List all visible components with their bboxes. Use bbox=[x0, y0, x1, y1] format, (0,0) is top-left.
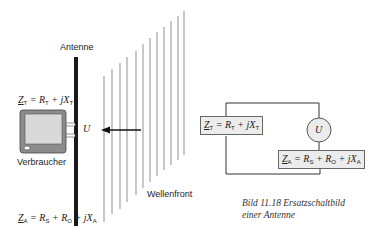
consumer-label: Verbraucher bbox=[17, 158, 66, 167]
incoming-wave-arrow bbox=[101, 127, 141, 134]
circuit-consumer-impedance-box: ZT = RT + jXT bbox=[200, 116, 263, 135]
antenna-label: Antenne bbox=[60, 43, 94, 52]
voltage-label: U bbox=[83, 124, 90, 134]
antenna-rod bbox=[74, 57, 78, 226]
wavefront-label: Wellenfront bbox=[147, 190, 192, 199]
circuit-antenna-impedance-box: ZA = RS + RO + jXA bbox=[278, 150, 365, 169]
circuit-source-label: U bbox=[315, 125, 322, 135]
caption-line-2: einer Antenne bbox=[242, 210, 345, 222]
antenna-impedance-formula: ZA = RS + RO + jXA bbox=[18, 213, 97, 224]
caption-line-1: Bild 11.18 Ersatzschaltbild bbox=[242, 198, 345, 210]
consumer-impedance-formula: ZT = RT + jXT bbox=[18, 95, 73, 106]
figure-caption: Bild 11.18 Ersatzschaltbild einer Antenn… bbox=[242, 198, 345, 222]
consumer-tv bbox=[20, 110, 66, 153]
